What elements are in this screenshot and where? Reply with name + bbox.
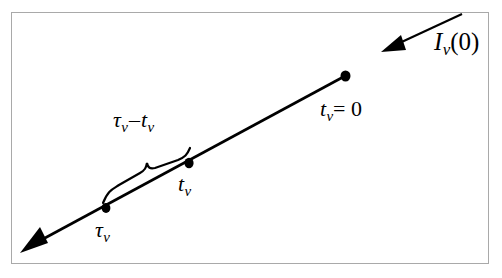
tau-nu-subscript: ν [103, 229, 110, 245]
label-incident-intensity: Iν(0) [434, 29, 479, 58]
incident-intensity-symbol: I [434, 28, 442, 55]
point-t-nu [184, 158, 193, 168]
figure-root: Iν(0) tν= 0 τν–tν τν tν [0, 0, 502, 278]
incident-intensity-argument: (0) [450, 28, 479, 55]
ray-arrowhead-icon [20, 227, 48, 253]
label-tau-nu-point: τν [95, 219, 110, 245]
tau-nu-symbol: τ [95, 217, 103, 242]
ray-line-group [20, 76, 345, 253]
interval-first-symbol: τ [113, 107, 121, 132]
ray-diagram-canvas [0, 0, 502, 278]
point-tau-nu [102, 203, 111, 213]
interval-brace-icon [103, 148, 190, 203]
label-interval: τν–tν [113, 109, 154, 135]
label-t-nu-point: tν [178, 173, 191, 199]
optical-depth-zero-relation: = 0 [333, 96, 362, 121]
interval-operator: – [129, 107, 140, 132]
interval-first-subscript: ν [121, 119, 128, 135]
t-nu-subscript: ν [184, 183, 191, 199]
interval-second-subscript: ν [147, 119, 154, 135]
incident-arrowhead-icon [381, 35, 406, 52]
point-t-nu-zero [341, 71, 351, 82]
label-optical-depth-zero: tν= 0 [320, 98, 362, 124]
